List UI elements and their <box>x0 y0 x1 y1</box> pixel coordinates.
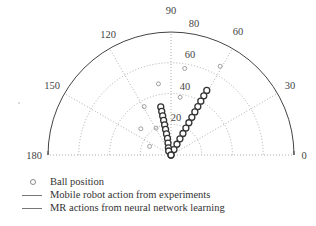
angle-label-180: 180 <box>26 150 42 161</box>
angle-label-90: 90 <box>166 5 177 16</box>
angle-label-0: 0 <box>301 150 306 161</box>
line-marker-icon <box>22 203 42 213</box>
radial-label-60: 60 <box>185 49 196 60</box>
open-circle-marker-icon <box>22 177 42 187</box>
radial-label-20: 20 <box>171 112 182 123</box>
legend-label: MR actions from neural network learning <box>50 202 225 213</box>
angle-label-120: 120 <box>100 29 116 40</box>
legend-item-robot-action: Mobile robot action from experiments <box>22 188 210 201</box>
radial-label-80: 80 <box>189 18 200 29</box>
angle-label-150: 150 <box>44 80 60 91</box>
legend-item-nn-actions: MR actions from neural network learning <box>22 201 225 214</box>
polar-grid <box>48 32 294 155</box>
legend-item-ball-position: Ball position <box>22 175 104 188</box>
legend-label: Mobile robot action from experiments <box>50 189 210 200</box>
legend-label: Ball position <box>50 176 104 187</box>
line-marker-icon <box>22 190 42 200</box>
angle-label-30: 30 <box>285 80 296 91</box>
angle-label-60: 60 <box>233 26 244 37</box>
polar-chart: 90 80 60 120 60 150 30 40 20 180 0 <box>0 0 316 170</box>
radial-label-40: 40 <box>180 81 191 92</box>
